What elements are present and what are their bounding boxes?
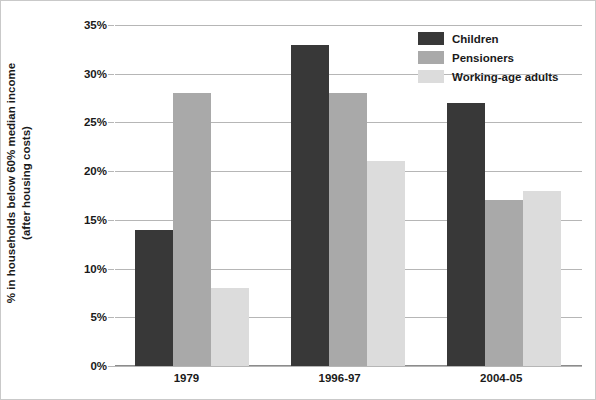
bar[interactable]: [485, 200, 523, 366]
legend-item[interactable]: Children: [418, 31, 559, 46]
bar[interactable]: [173, 93, 211, 366]
bar[interactable]: [291, 45, 329, 367]
y-tick-label: 10%: [84, 263, 107, 275]
bar[interactable]: [523, 191, 561, 366]
y-tick-label: 20%: [84, 165, 107, 177]
y-tick-label: 35%: [84, 19, 107, 31]
x-axis-labels: 19791996-972004-05: [114, 372, 582, 384]
legend-label: Working-age adults: [452, 71, 559, 83]
bar-group: [291, 25, 405, 366]
y-tick-label: 5%: [90, 311, 107, 323]
x-tick-label: 1996-97: [319, 372, 361, 384]
bar-group: [135, 25, 249, 366]
y-tick-mark: [108, 366, 114, 367]
legend: ChildrenPensionersWorking-age adults: [418, 31, 559, 84]
legend-label: Children: [452, 33, 499, 45]
bar[interactable]: [447, 103, 485, 366]
legend-swatch-icon: [418, 70, 444, 83]
x-tick-label: 2004-05: [480, 372, 522, 384]
y-tick-label: 0%: [90, 360, 107, 372]
legend-item[interactable]: Working-age adults: [418, 69, 559, 84]
legend-item[interactable]: Pensioners: [418, 50, 559, 65]
legend-swatch-icon: [418, 51, 444, 64]
y-tick-label: 30%: [84, 68, 107, 80]
x-tick-label: 1979: [174, 372, 200, 384]
bar[interactable]: [211, 288, 249, 366]
legend-label: Pensioners: [452, 52, 514, 64]
y-tick-label: 15%: [84, 214, 107, 226]
gridline: [114, 366, 582, 367]
y-axis-title-line-2: (after housing costs): [19, 126, 34, 240]
y-axis-title: % in households below 60% median income …: [1, 1, 37, 365]
legend-swatch-icon: [418, 32, 444, 45]
bar-chart: % in households below 60% median income …: [0, 0, 596, 400]
y-axis-title-line-1: % in households below 60% median income: [4, 63, 19, 303]
y-tick-label: 25%: [84, 116, 107, 128]
bar[interactable]: [329, 93, 367, 366]
bar[interactable]: [367, 161, 405, 366]
bar[interactable]: [135, 230, 173, 366]
